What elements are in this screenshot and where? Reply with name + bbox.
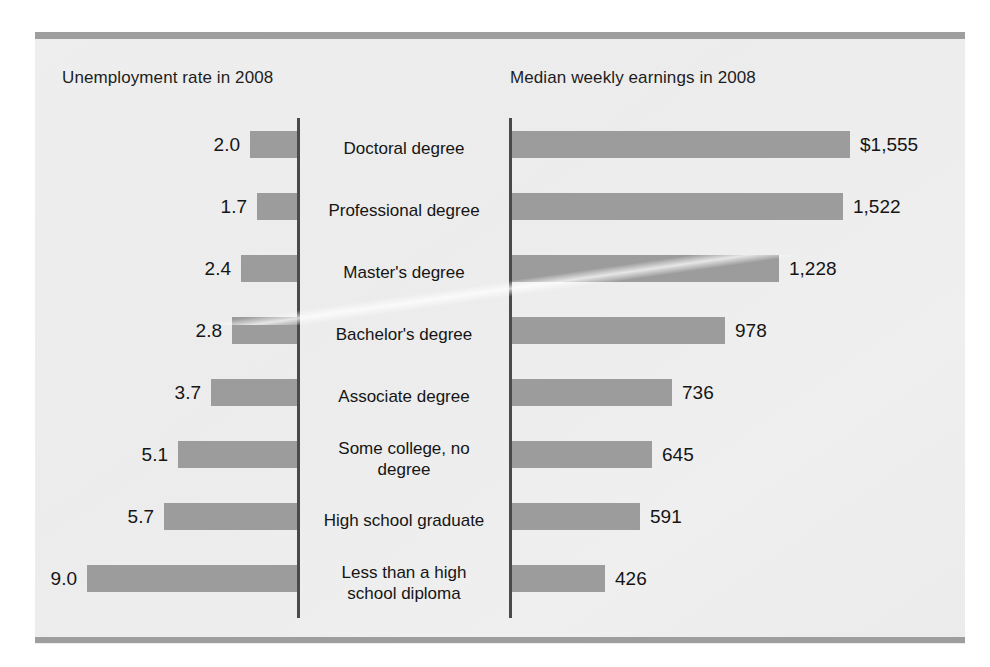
unemployment-bar-wrap [87, 565, 297, 592]
chart-page: Unemployment rate in 2008 Median weekly … [0, 0, 990, 667]
right-panel-title: Median weekly earnings in 2008 [510, 68, 756, 88]
bottom-rule [35, 637, 965, 643]
earnings-value-label: 426 [615, 565, 647, 592]
unemployment-bar [250, 131, 297, 158]
earnings-bar [512, 379, 672, 406]
earnings-bar [512, 317, 725, 344]
unemployment-bar-wrap [257, 193, 297, 220]
unemployment-bar-wrap [211, 379, 297, 406]
earnings-value-label: 978 [735, 317, 767, 344]
earnings-value-label: 645 [662, 441, 694, 468]
earnings-bar [512, 441, 652, 468]
category-label: Master's degree [310, 242, 498, 304]
category-label: Bachelor's degree [310, 304, 498, 366]
earnings-bar [512, 503, 640, 530]
category-label: High school graduate [310, 490, 498, 552]
unemployment-bar-wrap [241, 255, 297, 282]
earnings-value-label: 591 [650, 503, 682, 530]
earnings-bar [512, 131, 850, 158]
unemployment-bar-wrap [232, 317, 297, 344]
top-rule [35, 32, 965, 39]
chart-row: 5.7High school graduate591 [0, 490, 990, 552]
unemployment-bar [178, 441, 297, 468]
earnings-value-label: 1,522 [853, 193, 901, 220]
earnings-bar [512, 193, 843, 220]
category-label: Some college, nodegree [310, 428, 498, 490]
unemployment-bar-wrap [250, 131, 297, 158]
left-panel-title: Unemployment rate in 2008 [62, 68, 273, 88]
unemployment-bar-wrap [164, 503, 297, 530]
chart-row: 2.8Bachelor's degree978 [0, 304, 990, 366]
chart-row: 2.0Doctoral degree$1,555 [0, 118, 990, 180]
unemployment-value-label: 1.7 [221, 193, 247, 220]
unemployment-bar [211, 379, 297, 406]
unemployment-value-label: 3.7 [175, 379, 201, 406]
category-label: Associate degree [310, 366, 498, 428]
chart-plot-area: 2.0Doctoral degree$1,5551.7Professional … [0, 118, 990, 618]
unemployment-value-label: 5.1 [142, 441, 168, 468]
unemployment-value-label: 9.0 [51, 565, 77, 592]
unemployment-bar [232, 317, 297, 344]
chart-row: 2.4Master's degree1,228 [0, 242, 990, 304]
unemployment-value-label: 2.4 [205, 255, 231, 282]
category-label: Professional degree [310, 180, 498, 242]
unemployment-bar [257, 193, 297, 220]
earnings-bar [512, 255, 779, 282]
category-label: Less than a highschool diploma [310, 552, 498, 614]
chart-row: 9.0Less than a highschool diploma426 [0, 552, 990, 614]
earnings-value-label: $1,555 [860, 131, 918, 158]
unemployment-bar [87, 565, 297, 592]
chart-row: 3.7Associate degree736 [0, 366, 990, 428]
category-label: Doctoral degree [310, 118, 498, 180]
unemployment-value-label: 5.7 [128, 503, 154, 530]
chart-row: 1.7Professional degree1,522 [0, 180, 990, 242]
chart-row: 5.1Some college, nodegree645 [0, 428, 990, 490]
unemployment-bar-wrap [178, 441, 297, 468]
unemployment-value-label: 2.8 [196, 317, 222, 344]
unemployment-bar [164, 503, 297, 530]
unemployment-value-label: 2.0 [214, 131, 240, 158]
earnings-value-label: 1,228 [789, 255, 837, 282]
unemployment-bar [241, 255, 297, 282]
earnings-value-label: 736 [682, 379, 714, 406]
earnings-bar [512, 565, 605, 592]
